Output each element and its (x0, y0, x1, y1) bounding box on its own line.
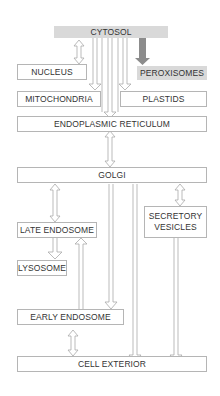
arrow-cytosol-mitochondria (89, 38, 101, 90)
node-cytosol: CYTOSOL (54, 26, 168, 38)
arrow-golgi-early-endosome (105, 184, 117, 309)
node-early-endosome: EARLY ENDOSOME (17, 309, 124, 325)
node-nucleus: NUCLEUS (17, 64, 87, 80)
node-plastids: PLASTIDS (120, 91, 207, 107)
arrow-golgi-exterior (129, 184, 141, 362)
node-mitochondria: MITOCHONDRIA (17, 91, 101, 107)
arrow-cytosol-peroxisomes (135, 38, 150, 65)
node-secretory-vesicles: SECRETORY VESICLES (144, 206, 207, 238)
arrow-golgi-secretory (175, 184, 185, 206)
node-endoplasmic-reticulum: ENDOPLASMIC RETICULUM (17, 116, 207, 132)
node-lysosome: LYSOSOME (17, 260, 67, 276)
node-cell-exterior: CELL EXTERIOR (17, 356, 207, 372)
arrow-early-late-endosome (75, 238, 87, 309)
arrow-cytosol-er (104, 38, 116, 118)
arrow-secretory-exterior (170, 238, 182, 362)
node-peroxisomes: PEROXISOMES (137, 66, 207, 80)
arrow-cytosol-plastids (119, 38, 131, 90)
node-late-endosome: LATE ENDOSOME (17, 222, 97, 238)
arrow-late-endosome-lysosome (48, 238, 62, 259)
arrow-early-endosome-exterior (68, 330, 78, 356)
arrows-layer (0, 0, 220, 396)
arrow-cytosol-nucleus (74, 40, 84, 64)
arrow-er-golgi (105, 131, 115, 167)
arrow-golgi-late-endosome (50, 184, 60, 222)
node-golgi: GOLGI (17, 167, 207, 183)
